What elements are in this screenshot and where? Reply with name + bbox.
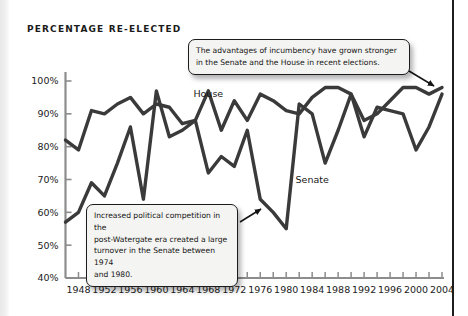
x-axis-tick-label: 1996 <box>378 284 402 295</box>
y-axis-tick-label: 70% <box>37 174 58 185</box>
x-axis-tick-label: 1984 <box>300 284 324 295</box>
x-axis-tick-label: 1988 <box>326 284 350 295</box>
annotation-top-line-2: in the Senate and the House in recent el… <box>196 57 402 69</box>
y-axis-tick-label: 90% <box>37 108 58 119</box>
x-axis-tick-label: 2000 <box>404 284 428 295</box>
annotation-bottom-line-4: and 1980. <box>94 269 230 281</box>
x-axis-tick-label: 1948 <box>66 284 90 295</box>
y-axis-tick-label: 50% <box>37 240 58 251</box>
y-axis-tick-label: 60% <box>37 207 58 218</box>
y-axis-tick-label: 100% <box>31 75 58 86</box>
x-axis-tick-label: 2004 <box>430 284 454 295</box>
annotation-top-line-1: The advantages of incumbency have grown … <box>196 45 402 57</box>
annotation-bottom-line-3: turnover in the Senate between 1974 <box>94 245 230 269</box>
y-axis-tick-label: 80% <box>37 141 58 152</box>
annotation-callout-incumbency: The advantages of incumbency have grown … <box>188 39 410 75</box>
annotation-callout-watergate: Increased political competition in the p… <box>86 204 238 287</box>
chart-figure: PERCENTAGE RE-ELECTED 100%90%80%70%60%50… <box>0 0 468 316</box>
y-axis-tick-label: 40% <box>37 272 58 283</box>
series-line-house <box>66 88 443 150</box>
series-label-house: House <box>193 88 223 99</box>
leader-bottom <box>240 209 261 222</box>
x-axis-tick-label: 1980 <box>274 284 298 295</box>
callout-leader-lines <box>240 68 434 222</box>
x-axis-tick-label: 1992 <box>352 284 376 295</box>
annotation-bottom-line-2: post-Watergate era created a large <box>94 234 230 246</box>
annotation-bottom-line-1: Increased political competition in the <box>94 210 230 234</box>
x-axis-tick-label: 1976 <box>248 284 272 295</box>
series-label-senate: Senate <box>296 174 329 185</box>
